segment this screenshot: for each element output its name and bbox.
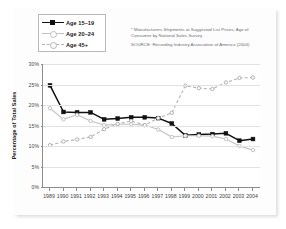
x-tick-label: 2002 (219, 193, 231, 199)
legend-item-age-20-24: Age 20–24 (42, 28, 102, 39)
data-point (62, 110, 66, 114)
plot-area (42, 64, 260, 188)
x-tick-mark (184, 188, 185, 191)
data-point (224, 137, 227, 140)
x-tick-label: 1999 (179, 193, 191, 199)
legend-label-age-15-19: Age 15–19 (64, 20, 94, 26)
y-tick-label: 15% (29, 123, 39, 129)
x-tick-mark (130, 188, 131, 191)
x-tick-mark (76, 188, 77, 191)
data-point (89, 110, 93, 114)
legend-marker-age-15-19-icon (42, 18, 64, 28)
data-point (251, 137, 255, 141)
data-point (75, 138, 78, 141)
x-tick-label: 1993 (97, 193, 109, 199)
x-tick-mark (117, 188, 118, 191)
gridline (43, 105, 260, 106)
x-tick-mark (252, 188, 253, 191)
data-point (116, 117, 120, 121)
source-line: SOURCE: Recording Industry Association o… (131, 42, 263, 48)
legend-marker-age-20-24-icon (42, 29, 64, 39)
data-point (238, 76, 241, 79)
data-point (89, 119, 92, 122)
gridline (43, 85, 260, 86)
x-tick-label: 1990 (57, 193, 69, 199)
data-point (129, 115, 133, 119)
x-tick-mark (157, 188, 158, 191)
legend-label-age-20-24: Age 20–24 (64, 31, 94, 37)
data-point (170, 111, 173, 114)
x-tick-mark (90, 188, 91, 191)
data-point (211, 87, 214, 90)
data-point (238, 139, 242, 143)
x-tick-mark (63, 188, 64, 191)
series-age-45 (48, 76, 254, 147)
data-point (197, 134, 200, 137)
x-axis-ticks: 1989199019911992199319941995199619971998… (42, 188, 259, 206)
gridline (43, 64, 260, 65)
data-point (75, 113, 78, 116)
data-point (170, 135, 173, 138)
data-point (143, 115, 147, 119)
x-tick-mark (49, 188, 50, 191)
y-tick-label: 0% (32, 184, 40, 190)
x-tick-label: 1995 (124, 193, 136, 199)
data-point (89, 135, 92, 138)
data-point (157, 116, 160, 119)
x-tick-mark (103, 188, 104, 191)
gridline (43, 126, 260, 127)
data-point (102, 127, 105, 130)
x-tick-mark (211, 188, 212, 191)
y-tick-label: 5% (32, 164, 40, 170)
data-point (62, 118, 65, 121)
x-tick-mark (198, 188, 199, 191)
data-point (224, 131, 228, 135)
x-tick-label: 1991 (70, 193, 82, 199)
footnote-line-2: Consumer by National Sales Survey (131, 33, 263, 39)
gridline (43, 146, 260, 147)
x-tick-label: 2000 (192, 193, 204, 199)
chart-legend: Age 15–19 Age 20–24 Age 45+ (38, 14, 106, 52)
series-line (50, 85, 253, 140)
data-point (62, 140, 65, 143)
y-tick-label: 10% (29, 143, 39, 149)
data-point (48, 107, 51, 110)
y-tick-label: 20% (29, 102, 39, 108)
y-tick-label: 25% (29, 82, 39, 88)
data-point (251, 76, 254, 79)
y-axis-title: Percentage of Total Sales (8, 64, 19, 187)
x-tick-label: 1997 (151, 193, 163, 199)
chart-notes: * Manufacturers Shipments at Suggested L… (131, 27, 263, 49)
x-tick-label: 2001 (206, 193, 218, 199)
legend-label-age-45-plus: Age 45+ (64, 42, 88, 48)
series-line (50, 78, 253, 146)
x-tick-label: 1989 (43, 193, 55, 199)
x-tick-label: 1998 (165, 193, 177, 199)
legend-item-age-45-plus: Age 45+ (42, 39, 102, 50)
x-tick-label: 1992 (84, 193, 96, 199)
legend-item-age-15-19: Age 15–19 (42, 17, 102, 28)
legend-marker-age-45-plus-icon (42, 40, 64, 50)
data-point (251, 148, 254, 151)
gridline (43, 167, 260, 168)
x-tick-label: 2003 (233, 193, 245, 199)
x-tick-mark (171, 188, 172, 191)
data-point (157, 128, 160, 131)
x-tick-label: 1996 (138, 193, 150, 199)
x-tick-label: 1994 (111, 193, 123, 199)
data-point (184, 134, 187, 137)
series-age-15-19 (48, 83, 255, 142)
y-tick-label: 30% (29, 61, 39, 67)
x-tick-mark (144, 188, 145, 191)
data-point (102, 117, 106, 121)
x-tick-mark (238, 188, 239, 191)
data-point (130, 119, 133, 122)
x-tick-mark (225, 188, 226, 191)
y-axis-ticks: 30%25%20%15%10%5%0% (22, 64, 39, 187)
series-line (50, 108, 253, 150)
x-tick-label: 2004 (246, 193, 258, 199)
chart-figure: Age 15–19 Age 20–24 Age 45+ * Manufactur… (0, 0, 286, 229)
data-point (211, 134, 214, 137)
data-point (197, 86, 200, 89)
